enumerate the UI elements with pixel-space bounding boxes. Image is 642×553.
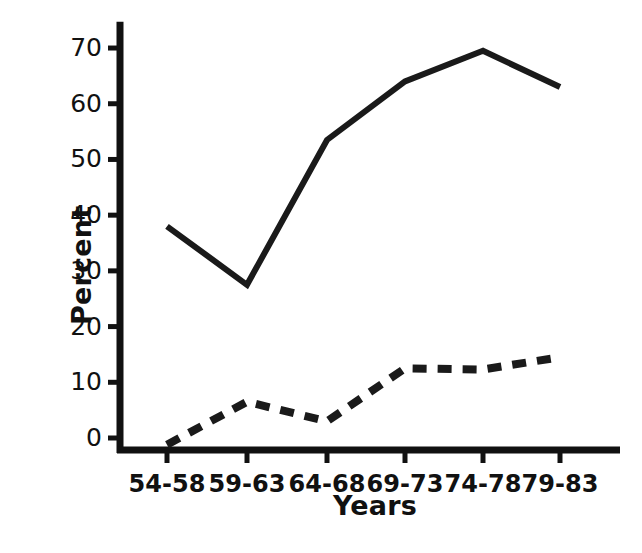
y-tick-label: 20: [44, 314, 102, 339]
data-series-layer: [167, 51, 560, 445]
y-tick-label: 70: [44, 35, 102, 60]
chart-container: Percent Years 010203040506070 54-5859-63…: [0, 0, 642, 553]
y-tick-label: 10: [44, 369, 102, 394]
series-dashed-series: [167, 357, 560, 444]
y-tick-label: 60: [44, 91, 102, 116]
y-tick-label: 40: [44, 202, 102, 227]
tick-marks: [108, 48, 560, 463]
y-tick-label: 0: [44, 425, 102, 450]
series-solid-series: [167, 51, 560, 285]
y-tick-label: 30: [44, 258, 102, 283]
x-tick-label: 79-83: [505, 472, 615, 496]
y-tick-label: 50: [44, 146, 102, 171]
